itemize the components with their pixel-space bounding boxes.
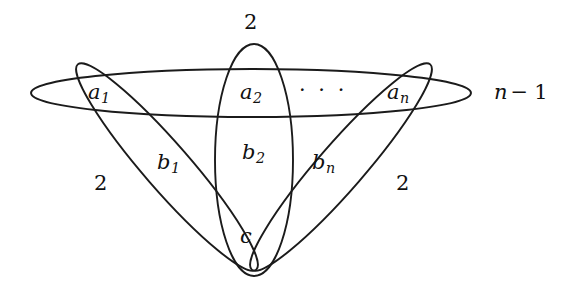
label-c: c — [240, 226, 252, 247]
label-bn-base: b — [312, 150, 325, 174]
label-an-base: a — [387, 80, 400, 104]
label-a1-subscript: 1 — [101, 90, 110, 106]
label-an-subscript: n — [400, 90, 409, 106]
label-an: an — [387, 82, 409, 105]
venn-diagram-canvas — [0, 0, 586, 304]
label-a1-base: a — [88, 80, 101, 104]
label-a2-base: a — [240, 80, 253, 104]
label-a2: a2 — [240, 82, 262, 105]
label-n-minus-1-base: n — [494, 80, 508, 104]
label-n-minus-1: n−1 — [494, 82, 551, 103]
label-b1: b1 — [157, 152, 180, 175]
label-b1-subscript: 1 — [171, 160, 180, 176]
label-left-multiplicity: 2 — [94, 173, 107, 194]
label-right-multiplicity: 2 — [396, 173, 409, 194]
venn-diagram-figure: 2 2 2 a1 a2 · · · an b1 b2 bn c n−1 — [0, 0, 586, 304]
label-b1-base: b — [157, 150, 170, 174]
label-ellipsis: · · · — [299, 80, 347, 101]
label-b2-subscript: 2 — [256, 150, 265, 166]
label-top-multiplicity: 2 — [244, 12, 257, 33]
label-a1: a1 — [88, 82, 110, 105]
label-a2-subscript: 2 — [253, 90, 262, 106]
label-bn-subscript: n — [326, 160, 335, 176]
label-bn: bn — [312, 152, 335, 175]
label-b2-base: b — [242, 140, 255, 164]
label-n-minus-1-tail: 1 — [534, 80, 547, 104]
label-n-minus-1-operator: − — [511, 80, 529, 104]
label-b2: b2 — [242, 142, 265, 165]
